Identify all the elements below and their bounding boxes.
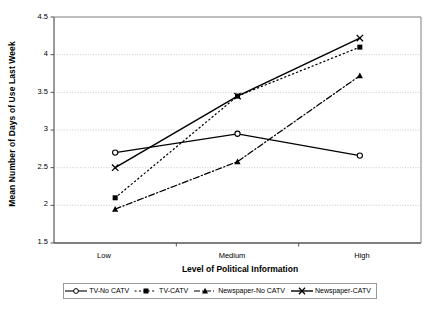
x-tick-label-medium: Medium bbox=[197, 252, 267, 260]
legend-item-tv-catv: TV-CATV bbox=[134, 286, 193, 296]
x-axis-title: Level of Political Information bbox=[55, 264, 425, 274]
plot-area bbox=[0, 0, 434, 309]
legend-label-newspaper-no-catv: Newspaper-No CATV bbox=[217, 287, 290, 295]
data-series-group bbox=[112, 35, 363, 212]
legend-label-tv-catv: TV-CATV bbox=[158, 287, 193, 295]
legend-item-newspaper-catv: Newspaper-CATV bbox=[290, 286, 376, 296]
legend-key-cross-x-icon bbox=[290, 286, 314, 296]
legend-label-tv-no-catv: TV-No CATV bbox=[88, 287, 134, 295]
legend-key-filled-square-icon bbox=[134, 286, 158, 296]
chart-legend: TV-No CATV TV-CATV Newspaper-No CATV bbox=[63, 283, 377, 299]
x-tick-label-high: High bbox=[327, 252, 397, 260]
legend-key-filled-triangle-icon bbox=[193, 286, 217, 296]
gridlines bbox=[54, 55, 421, 206]
legend-item-tv-no-catv: TV-No CATV bbox=[64, 286, 134, 296]
legend-item-newspaper-no-catv: Newspaper-No CATV bbox=[193, 286, 290, 296]
x-tick-label-low: Low bbox=[69, 252, 139, 260]
legend-label-newspaper-catv: Newspaper-CATV bbox=[314, 287, 376, 295]
chart-figure: Mean Number of Days of Use Last Week 4.5… bbox=[0, 0, 434, 309]
axis-ticks bbox=[51, 17, 299, 247]
legend-key-open-circle-icon bbox=[64, 286, 88, 296]
